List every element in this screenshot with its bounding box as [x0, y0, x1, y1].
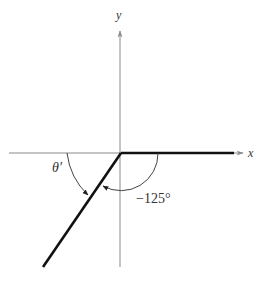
reference-angle-arc [67, 153, 88, 195]
reference-angle-label: θ′ [52, 160, 63, 175]
reference-angle-diagram: y x θ′ −125° [0, 0, 259, 284]
standard-angle-arc [103, 153, 158, 191]
x-axis-label: x [247, 146, 254, 160]
y-axis-label: y [115, 8, 122, 22]
standard-angle-label: −125° [136, 191, 171, 206]
